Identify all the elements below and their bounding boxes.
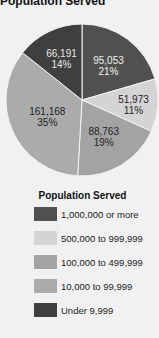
legend-swatch (34, 279, 57, 293)
pie-chart: 95,05321%51,97311%88,76319%161,16835%66,… (0, 14, 159, 184)
slice-value-label: 88,763 (88, 126, 119, 137)
slice-percent-label: 14% (51, 59, 71, 70)
legend-swatch (34, 231, 57, 245)
slice-value-label: 95,053 (93, 55, 124, 66)
legend-item-1m-plus: 1,000,000 or more (0, 207, 159, 221)
legend-swatch (34, 303, 57, 317)
legend-swatch (34, 207, 57, 221)
legend-swatch (34, 255, 57, 269)
slice-value-label: 51,973 (118, 94, 149, 105)
slice-percent-label: 21% (98, 66, 118, 77)
slice-percent-label: 11% (124, 105, 143, 116)
legend-label: Under 9,999 (61, 305, 113, 316)
legend-item-500k: 500,000 to 999,999 (0, 231, 159, 245)
legend-label: 500,000 to 999,999 (61, 233, 143, 244)
legend-item-100k: 100,000 to 499,999 (0, 255, 159, 269)
legend: Population Served 1,000,000 or more 500,… (0, 190, 159, 327)
slice-percent-label: 19% (94, 137, 114, 148)
legend-title: Population Served (6, 190, 159, 201)
legend-item-10k: 10,000 to 99,999 (0, 279, 159, 293)
slice-percent-label: 35% (37, 117, 57, 128)
slice-value-label: 66,191 (46, 48, 77, 59)
legend-label: 1,000,000 or more (61, 209, 139, 220)
legend-item-under-10k: Under 9,999 (0, 303, 159, 317)
chart-title: Population Served (0, 0, 105, 8)
pie-svg: 95,05321%51,97311%88,76319%161,16835%66,… (0, 14, 159, 184)
legend-label: 10,000 to 99,999 (61, 281, 132, 292)
legend-label: 100,000 to 499,999 (61, 257, 143, 268)
slice-value-label: 161,168 (29, 106, 66, 117)
